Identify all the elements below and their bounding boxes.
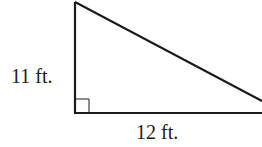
height-label: 11 ft. <box>11 65 52 87</box>
base-label: 12 ft. <box>136 121 178 143</box>
hypotenuse <box>75 2 262 101</box>
triangle-shape <box>75 2 262 113</box>
right-triangle-diagram: 11 ft. 12 ft. <box>0 0 262 147</box>
right-angle-marker <box>76 99 89 112</box>
